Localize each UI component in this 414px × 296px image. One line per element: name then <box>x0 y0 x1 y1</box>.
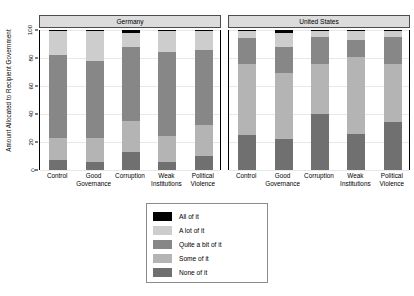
bar-segment <box>384 30 402 31</box>
bar-segment <box>49 160 67 170</box>
bars-germany <box>40 30 220 170</box>
y-axis-title-text: Amount Allocated to Recipient Government <box>5 29 12 151</box>
bar-segment <box>158 52 176 136</box>
bar-segment <box>347 134 365 170</box>
panel-strip-label-germany: Germany <box>116 18 143 25</box>
plot-area-united-states <box>228 30 410 170</box>
bar-segment <box>384 37 402 64</box>
y-axis-tick-label: 40 <box>27 111 34 118</box>
legend-swatch <box>153 212 172 221</box>
bar-segment <box>384 64 402 123</box>
y-axis-tick-label: 100 <box>24 27 34 34</box>
panel-germany: Germany ControlGoodGovernanceCorruptionW… <box>39 15 221 170</box>
bars-united-states <box>229 30 409 170</box>
bar-segment <box>275 139 293 170</box>
legend-label: Quite a bit of it <box>179 241 222 248</box>
bar-segment <box>86 162 104 170</box>
bar-segment <box>347 40 365 57</box>
x-axis-tick-label-line: Political <box>369 172 414 180</box>
legend-item: Quite a bit of it <box>153 237 261 251</box>
legend-label: None of it <box>179 269 207 276</box>
panel-strip-label-united-states: United States <box>299 18 339 25</box>
bar-segment <box>195 50 213 126</box>
bar-segment <box>311 64 329 114</box>
y-axis-tick-label: 80 <box>27 55 34 62</box>
bar-segment <box>347 30 365 31</box>
y-axis: 020406080100 <box>16 30 38 170</box>
legend-swatch <box>153 254 172 263</box>
bar-segment <box>238 64 256 135</box>
bar-segment <box>86 30 104 31</box>
stacked-bar <box>275 30 293 170</box>
stacked-bar <box>384 30 402 170</box>
y-axis-title: Amount Allocated to Recipient Government <box>0 0 16 180</box>
bar-segment <box>195 156 213 170</box>
bar-segment <box>311 37 329 64</box>
y-axis-tick-mark <box>35 142 38 143</box>
bar-segment <box>195 30 213 31</box>
x-axis-labels-germany: ControlGoodGovernanceCorruptionWeakInsti… <box>39 172 221 196</box>
bar-segment <box>311 30 329 31</box>
bar-segment <box>122 152 140 170</box>
legend-swatch <box>153 240 172 249</box>
gridline <box>229 170 409 171</box>
legend-item: Some of it <box>153 251 261 265</box>
legend: All of itA lot of itQuite a bit of itSom… <box>146 203 268 283</box>
x-axis-tick-label-line: Violence <box>180 180 226 188</box>
stacked-bar <box>158 30 176 170</box>
bar-segment <box>195 31 213 49</box>
legend-swatch <box>153 226 172 235</box>
plot-area-germany <box>39 30 221 170</box>
bar-segment <box>238 30 256 31</box>
legend-label: Some of it <box>179 255 209 262</box>
y-axis-tick-label: 20 <box>27 139 34 146</box>
bar-segment <box>122 33 140 47</box>
x-axis-tick-label: PoliticalViolence <box>180 172 226 187</box>
bar-segment <box>275 47 293 74</box>
stacked-bar <box>195 30 213 170</box>
stacked-bar <box>311 30 329 170</box>
y-axis-tick-mark <box>35 58 38 59</box>
stacked-bar <box>347 30 365 170</box>
bar-segment <box>122 30 140 33</box>
stacked-bar <box>86 30 104 170</box>
bar-segment <box>158 30 176 31</box>
bar-segment <box>122 121 140 152</box>
bar-segment <box>122 47 140 121</box>
x-axis-tick-label-line: Violence <box>369 180 414 188</box>
bar-segment <box>384 122 402 170</box>
bar-segment <box>275 33 293 47</box>
x-axis-tick-label-line: Political <box>180 172 226 180</box>
bar-segment <box>384 31 402 37</box>
legend-item: A lot of it <box>153 223 261 237</box>
bar-segment <box>49 31 67 55</box>
y-axis-tick-mark <box>35 170 38 171</box>
y-axis-tick-mark <box>35 114 38 115</box>
legend-item: All of it <box>153 209 261 223</box>
legend-swatch <box>153 268 172 277</box>
bar-segment <box>195 125 213 156</box>
bar-segment <box>49 30 67 31</box>
stacked-bar <box>49 30 67 170</box>
y-axis-tick-mark <box>35 30 38 31</box>
bar-segment <box>86 61 104 138</box>
stacked-bar <box>122 30 140 170</box>
bar-segment <box>311 31 329 37</box>
bar-segment <box>49 138 67 160</box>
legend-label: A lot of it <box>179 227 204 234</box>
bar-segment <box>86 31 104 60</box>
legend-item: None of it <box>153 265 261 279</box>
bar-segment <box>158 31 176 52</box>
x-axis-tick-label-line: Governance <box>71 180 117 188</box>
stacked-bar-chart-figure: Amount Allocated to Recipient Government… <box>0 0 414 296</box>
bar-segment <box>238 38 256 63</box>
bar-segment <box>86 138 104 162</box>
panel-strip-united-states: United States <box>228 15 410 28</box>
bar-segment <box>311 114 329 170</box>
bar-segment <box>275 73 293 139</box>
bar-segment <box>158 162 176 170</box>
bar-segment <box>158 136 176 161</box>
bar-segment <box>238 135 256 170</box>
x-axis-tick-label-line: Governance <box>260 180 306 188</box>
legend-label: All of it <box>179 213 199 220</box>
